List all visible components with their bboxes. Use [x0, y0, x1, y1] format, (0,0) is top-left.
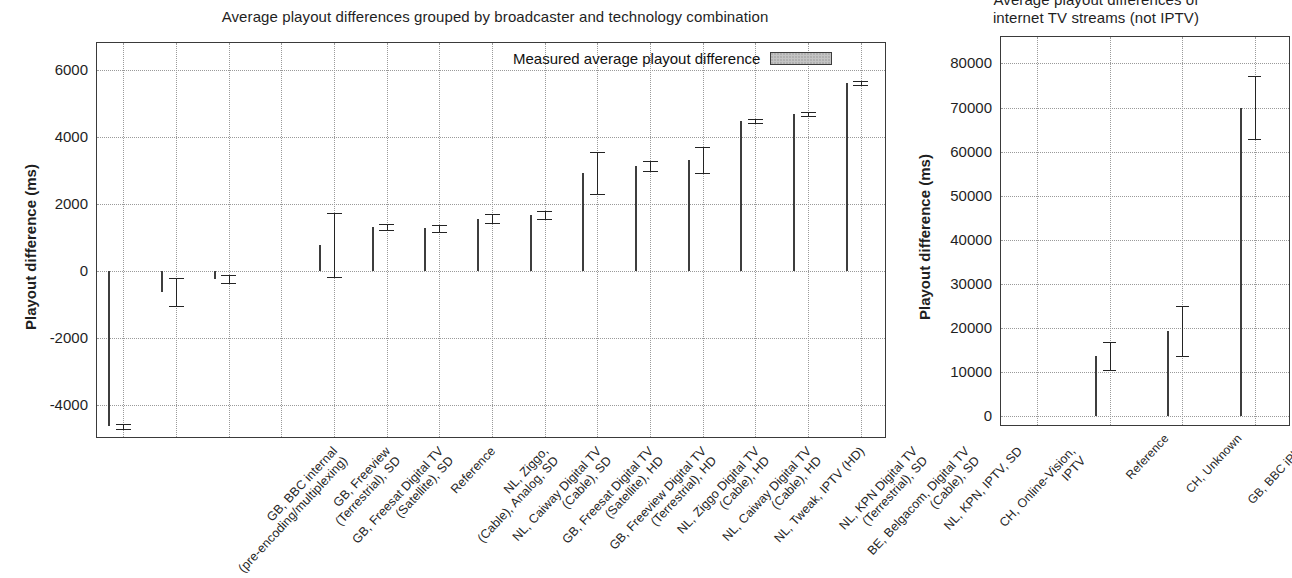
error-bar-cap [590, 194, 605, 195]
left-chart-y-axis-title: Playout difference (ms) [22, 164, 39, 330]
bar [846, 83, 848, 271]
error-bar-cap [116, 424, 131, 425]
right-chart-plot-area [1000, 36, 1290, 426]
error-bar-cap [221, 275, 236, 276]
y-axis-tick-label: 10000 [908, 362, 992, 379]
left-chart-figure: Average playout differences grouped by b… [0, 0, 900, 578]
error-bar-cap [1248, 139, 1261, 140]
left-chart-legend-label: Measured average playout difference [513, 50, 760, 67]
error-bar-line [703, 147, 704, 173]
y-axis-tick-label: 80000 [908, 54, 992, 71]
error-bar-cap [1176, 306, 1189, 307]
error-bar-line [334, 213, 335, 277]
error-bar-cap [1103, 370, 1116, 371]
error-bar-line [439, 225, 440, 232]
error-bar-cap [221, 283, 236, 284]
bar [582, 173, 584, 271]
gridline-vertical [492, 43, 493, 437]
error-bar-cap [748, 119, 763, 120]
error-bar-line [597, 152, 598, 194]
x-axis-tick-label: GB, BBC iPlayer [1232, 432, 1292, 522]
error-bar-cap [327, 213, 342, 214]
error-bar-line [176, 278, 177, 307]
gridline-horizontal [1001, 108, 1289, 109]
error-bar-cap [801, 112, 816, 113]
gridline-horizontal [1001, 152, 1289, 153]
error-bar-cap [643, 171, 658, 172]
figure-canvas: Average playout differences grouped by b… [0, 0, 1292, 578]
gridline-vertical [1037, 37, 1038, 425]
gridline-horizontal [1001, 240, 1289, 241]
y-axis-tick-label: 2000 [4, 195, 88, 212]
left-chart-legend-swatch [770, 52, 832, 65]
error-bar-cap [169, 306, 184, 307]
bar [424, 228, 426, 271]
bar [319, 245, 321, 271]
error-bar-cap [537, 219, 552, 220]
gridline-horizontal [1001, 372, 1289, 373]
error-bar-line [229, 275, 230, 284]
error-bar-cap [169, 278, 184, 279]
error-bar-line [1255, 76, 1256, 139]
bar [372, 227, 374, 271]
error-bar-cap [537, 211, 552, 212]
gridline-horizontal [1001, 416, 1289, 417]
gridline-vertical [545, 43, 546, 437]
error-bar-cap [643, 161, 658, 162]
gridline-horizontal [97, 70, 885, 71]
bar [530, 215, 532, 271]
error-bar-cap [432, 225, 447, 226]
error-bar-line [650, 161, 651, 170]
right-chart-title: Average playout differences of internet … [910, 0, 1282, 26]
gridline-horizontal [97, 137, 885, 138]
error-bar-line [492, 214, 493, 223]
left-chart-plot-area [96, 42, 886, 438]
error-bar-cap [695, 147, 710, 148]
bar [740, 121, 742, 271]
bar [1167, 331, 1169, 416]
gridline-vertical [808, 43, 809, 437]
gridline-horizontal [97, 405, 885, 406]
error-bar-cap [1176, 356, 1189, 357]
gridline-vertical [229, 43, 230, 437]
gridline-horizontal [1001, 196, 1289, 197]
gridline-vertical [123, 43, 124, 437]
bar [108, 271, 110, 426]
gridline-vertical [861, 43, 862, 437]
bar [1240, 108, 1242, 416]
y-axis-tick-label: 40000 [908, 230, 992, 247]
error-bar-cap [695, 173, 710, 174]
gridline-horizontal [1001, 328, 1289, 329]
y-axis-tick-label: 0 [4, 262, 88, 279]
bar [635, 166, 637, 271]
error-bar-cap [485, 223, 500, 224]
y-axis-tick-label: 4000 [4, 127, 88, 144]
right-chart-figure: Average playout differences of internet … [900, 0, 1292, 578]
bar [1095, 356, 1097, 416]
y-axis-tick-label: -2000 [4, 329, 88, 346]
gridline-vertical [703, 43, 704, 437]
bar [214, 271, 216, 279]
error-bar-cap [379, 230, 394, 231]
error-bar-line [1182, 306, 1183, 355]
gridline-horizontal [1001, 63, 1289, 64]
left-chart-legend: Measured average playout difference [513, 50, 832, 67]
error-bar-cap [1103, 342, 1116, 343]
y-axis-tick-label: 6000 [4, 60, 88, 77]
error-bar-cap [432, 232, 447, 233]
bar [688, 160, 690, 271]
error-bar-cap [485, 214, 500, 215]
gridline-vertical [387, 43, 388, 437]
y-axis-tick-label: -4000 [4, 396, 88, 413]
bar [477, 219, 479, 272]
error-bar-cap [379, 224, 394, 225]
bar [161, 271, 163, 292]
gridline-vertical [597, 43, 598, 437]
left-chart-title: Average playout differences grouped by b… [90, 8, 900, 26]
gridline-vertical [650, 43, 651, 437]
x-axis-tick-label: CH, Unknown [1160, 432, 1245, 522]
y-axis-tick-label: 0 [908, 406, 992, 423]
gridline-vertical [439, 43, 440, 437]
gridline-vertical [176, 43, 177, 437]
bar [793, 114, 795, 271]
